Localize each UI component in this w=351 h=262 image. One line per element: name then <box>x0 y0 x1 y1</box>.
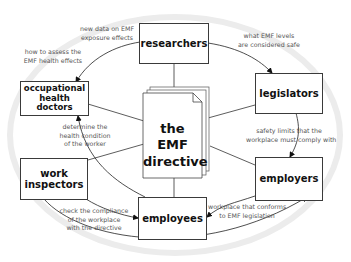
spoke-legislators <box>208 105 255 118</box>
label-line: new data on EMF <box>76 25 138 34</box>
node-inspectors-line2: inspectors <box>25 179 84 191</box>
label-line: what EMF levels <box>238 32 300 41</box>
node-employers[interactable]: employers <box>255 157 323 201</box>
node-inspectors-line1: work <box>40 168 68 180</box>
label-line: workplace that conforms <box>208 203 286 212</box>
label-line: how to assess the <box>22 48 84 57</box>
node-employees[interactable]: employees <box>138 197 207 240</box>
label-how-to-assess: how to assess the EMF health effects <box>22 48 84 65</box>
label-new-data: new data on EMF exposure effects <box>76 25 138 42</box>
node-doctors-line2: health doctors <box>21 94 88 114</box>
label-line: check the compliance <box>58 207 130 216</box>
label-check-compliance: check the compliance of the workplace wi… <box>58 207 130 233</box>
label-line: of the workplace <box>58 216 130 225</box>
arrow-researchers-doctors <box>76 42 140 82</box>
label-line: with the directive <box>58 224 130 233</box>
label-line: determine the <box>58 123 112 132</box>
label-line: are considered safe <box>238 41 300 50</box>
node-researchers-label: researchers <box>141 38 208 50</box>
spoke-employers <box>210 146 255 165</box>
label-line: health condition <box>58 132 112 141</box>
node-occupational-health-doctors[interactable]: occupational health doctors <box>20 81 89 116</box>
spoke-doctors <box>88 104 144 121</box>
label-line: of the worker <box>58 140 112 149</box>
label-determine-health: determine the health condition of the wo… <box>58 123 112 149</box>
label-line: exposure effects <box>76 34 138 43</box>
node-employers-label: employers <box>260 173 319 185</box>
node-work-inspectors[interactable]: work inspectors <box>20 158 88 200</box>
label-line: safety limits that the <box>246 127 332 136</box>
directive-title-line1: the EMF <box>143 121 202 154</box>
node-legislators[interactable]: legislators <box>255 73 323 114</box>
node-legislators-label: legislators <box>259 88 318 100</box>
label-line: EMF health effects <box>22 57 84 66</box>
label-workplace-conforms: workplace that conforms to EMF legislati… <box>208 203 286 220</box>
directive-title: the EMF directive <box>143 121 202 170</box>
directive-title-line2: directive <box>143 154 202 170</box>
label-what-emf-levels: what EMF levels are considered safe <box>238 32 300 49</box>
node-researchers[interactable]: researchers <box>139 23 209 64</box>
label-line: workplace must comply with <box>246 136 332 145</box>
label-safety-limits: safety limits that the workplace must co… <box>246 127 332 144</box>
node-employees-label: employees <box>142 213 203 225</box>
label-line: to EMF legislation <box>208 212 286 221</box>
